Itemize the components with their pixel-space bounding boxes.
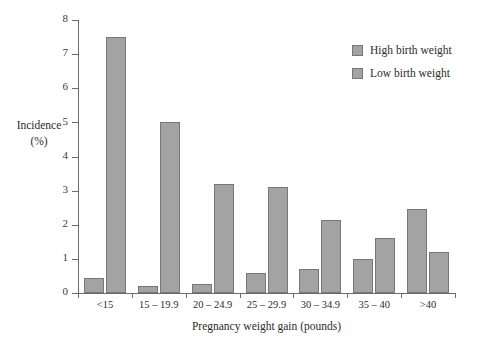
bar — [106, 37, 126, 293]
bar — [429, 252, 449, 293]
legend-item-label: Low birth weight — [370, 67, 450, 79]
bar — [138, 286, 158, 293]
bar — [353, 259, 373, 293]
x-axis-line — [78, 293, 455, 294]
chart-legend: High birth weight Low birth weight — [352, 44, 452, 90]
x-axis-tick — [293, 293, 294, 298]
y-axis-tick-label: 0 — [63, 286, 69, 297]
x-axis-title: Pregnancy weight gain (pounds) — [78, 320, 455, 332]
x-axis-tick — [347, 293, 348, 298]
bar — [84, 278, 104, 293]
x-axis-tick — [240, 293, 241, 298]
x-axis-tick — [132, 293, 133, 298]
y-axis-tick-label: 1 — [63, 252, 69, 263]
x-axis-tick-label: 30 – 34.9 — [301, 299, 340, 310]
bar — [321, 220, 341, 293]
bar — [268, 187, 288, 293]
x-axis-tick-label: 15 – 19.9 — [139, 299, 178, 310]
y-axis-tick-label: 7 — [63, 47, 69, 58]
y-axis-tick-label: 3 — [63, 184, 69, 195]
x-axis-tick-label: 20 – 24.9 — [193, 299, 232, 310]
x-axis-tick — [455, 293, 456, 298]
legend-swatch-icon — [352, 68, 363, 79]
x-axis-tick — [401, 293, 402, 298]
bar — [246, 273, 266, 293]
y-axis-tick-label: 2 — [63, 218, 69, 229]
x-axis-tick-label: 25 – 29.9 — [247, 299, 286, 310]
bar — [407, 209, 427, 293]
x-axis-tick-label: <15 — [97, 299, 113, 310]
x-axis-tick — [186, 293, 187, 298]
bar — [192, 284, 212, 293]
legend-swatch-icon — [352, 45, 363, 56]
bar — [160, 122, 180, 293]
legend-item-label: High birth weight — [370, 44, 452, 56]
y-axis-tick-label: 8 — [63, 13, 69, 24]
bar — [214, 184, 234, 293]
y-axis-tick-label: 6 — [63, 81, 69, 92]
x-axis-tick — [78, 293, 79, 298]
y-axis-title-text: Incidence — [17, 119, 62, 131]
bar-chart-figure: Incidence (%) 012345678 <1515 – 19.920 –… — [0, 0, 477, 349]
y-axis-tick-label: 5 — [63, 116, 69, 127]
bar — [375, 238, 395, 293]
x-axis-tick-label: 35 – 40 — [358, 299, 390, 310]
x-axis-tick-label: >40 — [420, 299, 436, 310]
legend-item-low-birth-weight: Low birth weight — [352, 67, 452, 79]
y-axis-tick-label: 4 — [63, 150, 69, 161]
bar — [299, 269, 319, 293]
y-axis-title-unit: (%) — [6, 134, 72, 150]
legend-item-high-birth-weight: High birth weight — [352, 44, 452, 56]
